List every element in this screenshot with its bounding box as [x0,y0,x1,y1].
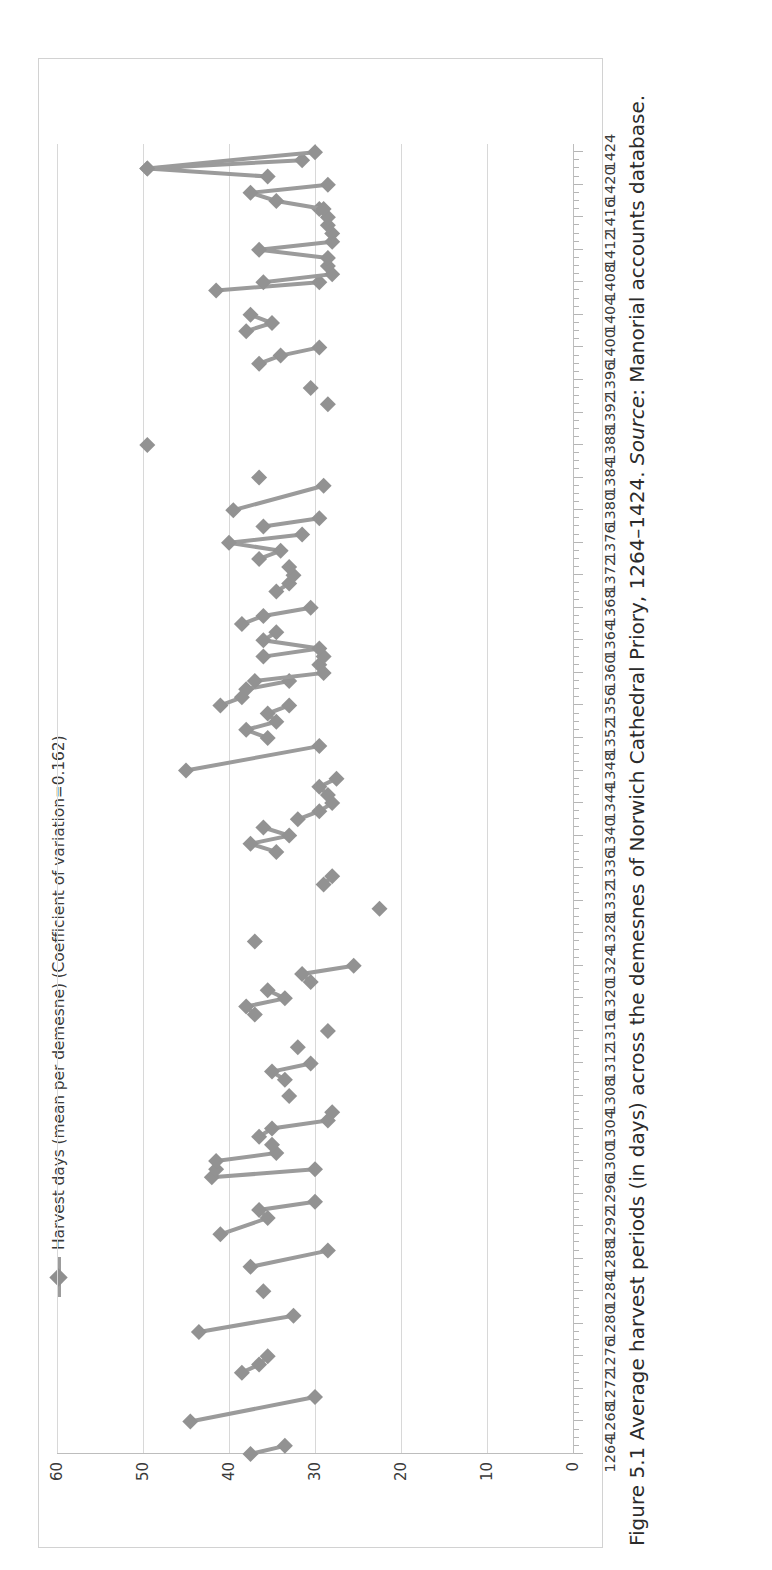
data-point-marker [243,836,259,852]
category-tick [574,1420,583,1421]
series-line-segment [263,632,319,656]
category-tick [574,1103,579,1104]
data-point-marker [182,1413,198,1429]
data-point-marker [320,1023,336,1039]
category-tick [574,826,579,827]
category-tick [574,664,579,665]
series-line-segment [259,242,332,258]
data-point-marker [225,502,241,518]
category-tick [574,599,579,600]
category-tick [574,298,579,299]
category-tick [574,1095,583,1096]
value-axis-label: 40 [220,1462,238,1506]
category-tick [574,1266,579,1267]
series-line-segment [190,1397,315,1421]
category-tick [574,1136,579,1137]
data-point-marker [234,616,250,632]
caption-prefix: Figure 5.1 Average harvest periods (in d… [625,465,649,1546]
category-tick [574,477,583,478]
data-point-marker [260,982,276,998]
category-tick [574,1160,583,1161]
category-tick [574,1014,579,1015]
data-point-marker [238,722,254,738]
category-tick [574,233,579,234]
category-tick [574,355,579,356]
category-tick [574,688,579,689]
data-point-marker [139,160,155,176]
category-tick [574,428,579,429]
category-tick [574,387,579,388]
data-point-marker [277,990,293,1006]
category-tick [574,1258,583,1259]
data-point-marker [255,608,271,624]
category-tick [574,591,579,592]
value-axis-label: 30 [306,1462,324,1506]
data-point-marker [260,169,276,185]
data-point-marker [281,1088,297,1104]
category-tick [574,493,579,494]
category-tick [574,159,579,160]
category-tick [574,1233,579,1234]
category-tick [574,1022,579,1023]
category-tick [574,672,583,673]
data-point-marker [320,250,336,266]
category-tick [574,1323,583,1324]
data-point-marker [329,771,345,787]
category-tick [574,403,579,404]
data-point-marker [281,697,297,713]
category-tick [574,607,583,608]
category-tick [574,965,583,966]
category-tick [574,713,579,714]
series-line-segment [242,608,311,624]
category-tick [574,281,583,282]
category-tick [574,786,579,787]
category-tick [574,835,583,836]
category-tick [574,1185,579,1186]
category-tick [574,1030,583,1031]
category-tick [574,1396,579,1397]
category-tick [574,582,579,583]
series-line-segment [263,518,319,526]
data-point-marker [268,844,284,860]
data-point-marker [243,1446,259,1462]
category-tick [574,623,579,624]
rotated-figure-wrapper: Harvest days (mean per demesne) (Coeffic… [0,0,772,1570]
category-tick [574,957,579,958]
category-axis-ticks: 1264126812721276128012841288129212961300… [573,144,574,1454]
category-tick [574,924,579,925]
category-tick [574,721,579,722]
data-point-marker [307,144,323,160]
category-tick [574,1445,579,1446]
category-tick [574,818,579,819]
data-point-marker [251,242,267,258]
category-tick [574,1453,583,1454]
category-tick [574,265,579,266]
category-tick [574,615,579,616]
figure-page: Harvest days (mean per demesne) (Coeffic… [0,0,772,1570]
category-tick [574,729,579,730]
category-tick [574,916,579,917]
category-tick [574,892,579,893]
category-tick [574,167,579,168]
category-tick [574,289,579,290]
data-point-marker [255,649,271,665]
data-point-marker [243,1259,259,1275]
category-tick [574,1404,579,1405]
category-tick [574,306,579,307]
data-point-marker [303,1055,319,1071]
value-axis-label: 10 [478,1462,496,1506]
category-tick [574,737,583,738]
category-tick [574,1250,579,1251]
series-line-segment [229,535,302,559]
category-tick [574,395,579,396]
category-tick [574,241,579,242]
series-line-segment [216,1145,276,1169]
value-axis-label: 60 [48,1462,66,1506]
data-point-marker [251,470,267,486]
category-tick [574,501,579,502]
category-tick [574,753,579,754]
category-tick [574,1209,579,1210]
data-point-marker [208,282,224,298]
category-tick [574,574,583,575]
series-line-segment [259,347,319,363]
